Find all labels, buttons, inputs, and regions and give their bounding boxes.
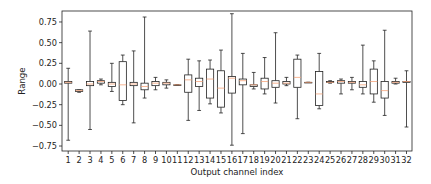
x-tick-label: 24: [314, 155, 324, 165]
x-tick-label: 2: [77, 155, 82, 165]
box-channel-30: [381, 30, 388, 115]
box-channel-12: [185, 59, 192, 120]
box-channel-1: [65, 68, 72, 140]
x-tick-label: 17: [238, 155, 248, 165]
x-axis-label: Output channel index: [191, 167, 284, 177]
x-tick-label: 19: [259, 155, 269, 165]
box-channel-2: [76, 90, 83, 92]
box-channel-19: [261, 58, 268, 94]
box-channel-31: [392, 78, 399, 84]
box-plot-figure: 0.750.500.250.00−0.25−0.50−0.75 12345678…: [0, 0, 431, 184]
x-axis: 1234567891011121314151617181920212223242…: [66, 151, 412, 165]
box-channel-20: [272, 33, 279, 103]
y-tick-label: −0.25: [32, 100, 57, 110]
x-tick-label: 32: [401, 155, 411, 165]
x-tick-label: 16: [227, 155, 237, 165]
y-tick-label: 0.50: [39, 38, 57, 48]
x-tick-label: 12: [183, 155, 193, 165]
x-tick-label: 20: [270, 155, 280, 165]
box-channel-16: [228, 14, 235, 145]
y-axis-label: Range: [17, 67, 27, 94]
x-tick-label: 10: [161, 155, 171, 165]
y-tick-label: −0.50: [32, 120, 57, 130]
x-tick-label: 18: [249, 155, 259, 165]
x-tick-label: 14: [205, 155, 215, 165]
box-channel-13: [196, 61, 203, 111]
x-tick-label: 29: [369, 155, 379, 165]
box-channel-22: [294, 55, 301, 119]
box-channel-24: [316, 53, 323, 108]
x-tick-label: 15: [216, 155, 226, 165]
y-tick-label: −0.75: [32, 141, 57, 151]
x-tick-label: 21: [281, 155, 291, 165]
box-channel-3: [86, 31, 93, 129]
x-tick-label: 7: [131, 155, 136, 165]
axes-frame: [62, 11, 412, 151]
box-channel-23: [305, 82, 312, 83]
box-channel-32: [403, 71, 410, 127]
x-tick-label: 22: [292, 155, 302, 165]
y-axis: 0.750.500.250.00−0.25−0.50−0.75: [32, 17, 62, 151]
x-tick-label: 4: [98, 155, 103, 165]
box-channel-27: [348, 77, 355, 89]
x-tick-label: 25: [325, 155, 335, 165]
x-tick-label: 8: [142, 155, 147, 165]
x-tick-label: 26: [336, 155, 346, 165]
x-tick-label: 31: [390, 155, 400, 165]
box-channel-11: [174, 85, 181, 86]
box-channel-9: [152, 77, 159, 89]
box-channel-28: [359, 45, 366, 94]
box-channel-8: [141, 17, 148, 98]
y-tick-label: 0.25: [39, 58, 57, 68]
box-channel-14: [206, 60, 213, 104]
x-tick-label: 9: [153, 155, 158, 165]
box-channel-7: [130, 51, 137, 123]
box-channel-4: [97, 79, 104, 85]
x-tick-label: 6: [120, 155, 125, 165]
box-channel-25: [327, 81, 334, 83]
plot-area: [65, 14, 411, 145]
box-plot-chart: 0.750.500.250.00−0.25−0.50−0.75 12345678…: [0, 0, 431, 184]
y-tick-label: 0.75: [39, 17, 57, 27]
x-tick-label: 28: [358, 155, 368, 165]
x-tick-label: 23: [303, 155, 313, 165]
box-channel-17: [239, 53, 246, 133]
x-tick-label: 11: [172, 155, 182, 165]
x-tick-label: 3: [87, 155, 92, 165]
x-tick-label: 1: [66, 155, 71, 165]
box-channel-10: [163, 80, 170, 88]
box-channel-5: [108, 63, 115, 91]
x-tick-label: 30: [379, 155, 389, 165]
box-channel-15: [217, 50, 224, 113]
box-channel-18: [250, 72, 257, 89]
box-channel-29: [370, 61, 377, 102]
box-channel-6: [119, 55, 126, 105]
y-tick-label: 0.00: [39, 79, 57, 89]
x-tick-label: 13: [194, 155, 204, 165]
x-tick-label: 5: [109, 155, 114, 165]
x-tick-label: 27: [347, 155, 357, 165]
box-channel-26: [337, 79, 344, 94]
box-channel-21: [283, 77, 290, 85]
